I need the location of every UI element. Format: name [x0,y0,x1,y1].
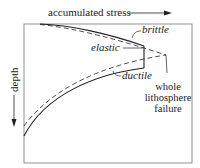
ductile-label: ductile [122,69,152,81]
elastic-label: elastic [91,41,120,53]
brittle-label: brittle [142,23,169,35]
y-axis-label: depth [8,67,20,92]
failure-label-line3: failure [154,103,182,114]
lithosphere-stress-diagram: accumulated stress depth brittle elastic… [0,0,200,168]
failure-leader [166,55,167,73]
lower-dashed-curve [24,55,166,126]
x-axis-label: accumulated stress [48,6,131,18]
brittle-leader [132,31,141,38]
failure-label-line1: whole [155,81,181,92]
y-axis-arrowhead-icon [12,119,17,127]
failure-label-line2: lithosphere [145,92,192,103]
x-axis-arrowhead-icon [164,11,172,16]
